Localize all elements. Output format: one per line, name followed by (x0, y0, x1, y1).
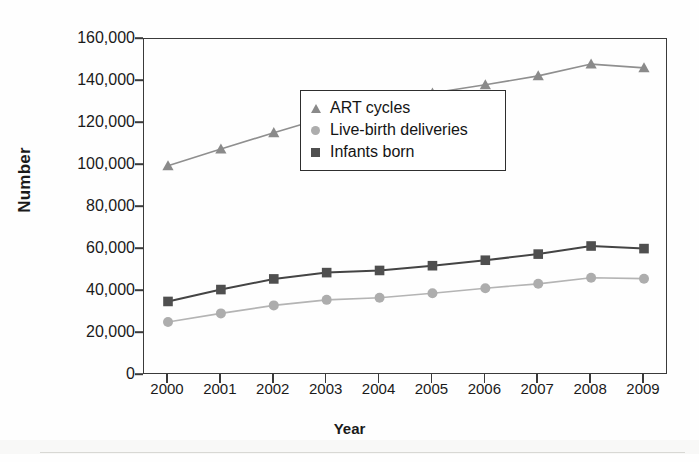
y-tick-label: 80,000 (39, 197, 135, 215)
legend-item: Infants born (309, 141, 497, 163)
data-point-marker (586, 58, 597, 68)
scan-artifact-line (40, 452, 685, 453)
data-point-marker (586, 273, 596, 283)
data-point-marker (586, 241, 596, 251)
series-live-birth-deliveries (163, 273, 649, 327)
figure-container: Number Year 020,00040,00060,00080,000100… (0, 0, 699, 462)
data-point-marker (428, 261, 438, 271)
y-tick-label: 0 (39, 365, 135, 383)
y-tick-label: 20,000 (39, 323, 135, 341)
circle-marker-icon (309, 123, 323, 137)
series-infants-born (163, 241, 649, 306)
legend-marker-shape (311, 126, 320, 135)
data-point-marker (322, 268, 332, 278)
triangle-marker-icon (309, 101, 323, 115)
data-point-marker (322, 295, 332, 305)
legend-marker-shape (311, 148, 320, 157)
data-point-marker (375, 293, 385, 303)
data-point-marker (480, 283, 490, 293)
data-point-marker (639, 274, 649, 284)
data-point-marker (481, 255, 491, 265)
legend-item: Live-birth deliveries (309, 119, 497, 141)
legend-item-label: Live-birth deliveries (330, 121, 468, 139)
chart-legend: ART cyclesLive-birth deliveriesInfants b… (300, 90, 506, 171)
y-tick-label: 160,000 (39, 29, 135, 47)
x-tick-mark (378, 374, 380, 383)
y-tick-mark (135, 331, 143, 333)
y-tick-label: 140,000 (39, 71, 135, 89)
y-tick-mark (135, 121, 143, 123)
legend-marker-shape (311, 104, 321, 113)
legend-item-label: Infants born (330, 143, 415, 161)
legend-item: ART cycles (309, 97, 497, 119)
x-tick-mark (431, 374, 433, 383)
x-tick-mark (536, 374, 538, 383)
data-point-marker (533, 279, 543, 289)
data-point-marker (216, 308, 226, 318)
y-tick-mark (135, 247, 143, 249)
data-point-marker (163, 317, 173, 327)
data-point-marker (269, 274, 279, 284)
square-marker-icon (309, 145, 323, 159)
data-point-marker (269, 300, 279, 310)
y-tick-mark (135, 373, 143, 375)
data-point-marker (163, 297, 173, 307)
x-tick-mark (166, 374, 168, 383)
y-tick-mark (135, 289, 143, 291)
y-tick-label: 120,000 (39, 113, 135, 131)
data-point-marker (216, 285, 226, 295)
y-tick-label: 60,000 (39, 239, 135, 257)
x-tick-mark (642, 374, 644, 383)
data-point-marker (427, 288, 437, 298)
x-tick-mark (219, 374, 221, 383)
x-tick-mark (325, 374, 327, 383)
y-tick-label: 40,000 (39, 281, 135, 299)
data-point-marker (533, 249, 543, 259)
legend-item-label: ART cycles (330, 99, 410, 117)
y-tick-mark (135, 37, 143, 39)
x-tick-mark (272, 374, 274, 383)
x-tick-mark (589, 374, 591, 383)
y-tick-label: 100,000 (39, 155, 135, 173)
y-axis-title: Number (15, 147, 35, 212)
data-point-marker (375, 266, 385, 276)
series-line (168, 278, 644, 322)
x-tick-mark (484, 374, 486, 383)
y-tick-mark (135, 163, 143, 165)
y-tick-mark (135, 79, 143, 81)
y-tick-mark (135, 205, 143, 207)
plot-frame (143, 38, 667, 374)
series-line (168, 246, 644, 301)
x-axis-title: Year (0, 420, 699, 437)
data-point-marker (639, 244, 649, 254)
